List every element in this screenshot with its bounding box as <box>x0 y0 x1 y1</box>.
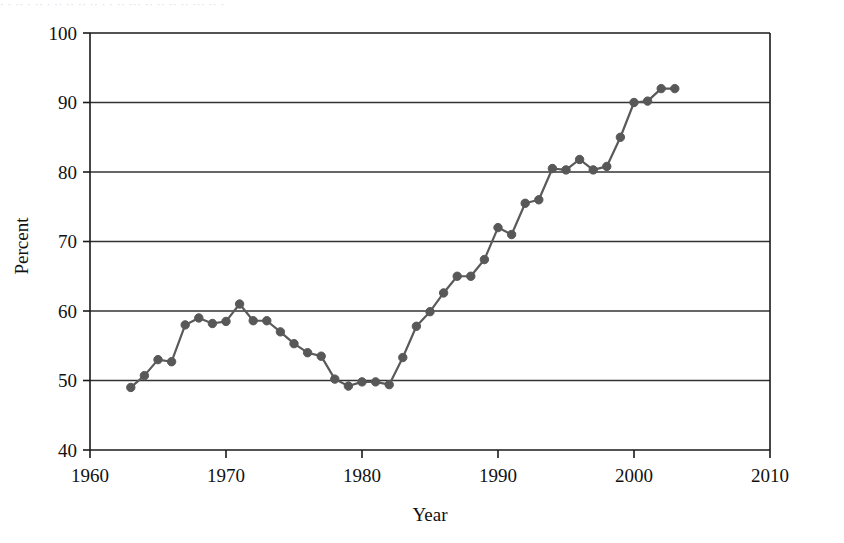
y-tick-label: 60 <box>58 301 77 322</box>
y-axis-title: Percent <box>11 217 32 275</box>
y-tick-label: 40 <box>58 440 77 461</box>
x-axis-ticks <box>90 450 770 458</box>
x-tick-label: 1980 <box>343 465 381 486</box>
y-tick-label: 100 <box>49 23 78 44</box>
x-tick-label: 2000 <box>615 465 653 486</box>
x-axis-title: Year <box>412 504 448 525</box>
plot-gridlines <box>90 103 770 381</box>
y-tick-label: 90 <box>58 92 77 113</box>
y-axis-ticks <box>83 33 90 450</box>
data-series-markers <box>127 84 679 391</box>
x-axis-tick-labels: 196019701980199020002010 <box>71 465 789 486</box>
data-series-line <box>131 89 675 388</box>
y-axis-tick-labels: 405060708090100 <box>49 23 78 461</box>
y-tick-label: 70 <box>58 231 77 252</box>
line-chart-plot: 405060708090100 196019701980199020002010… <box>0 0 844 543</box>
y-tick-label: 50 <box>58 370 77 391</box>
x-tick-label: 1970 <box>207 465 245 486</box>
y-tick-label: 80 <box>58 162 77 183</box>
chart-figure: · · ·· · ·· · ·· ·· ·· ·· · · ·· ··· ·· … <box>0 0 844 543</box>
x-tick-label: 2010 <box>751 465 789 486</box>
x-tick-label: 1990 <box>479 465 517 486</box>
x-tick-label: 1960 <box>71 465 109 486</box>
